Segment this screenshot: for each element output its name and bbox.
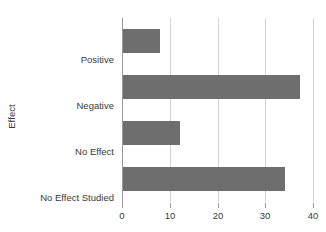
- x-tick-label: 20: [203, 210, 233, 222]
- y-tick-label: Positive: [14, 54, 114, 65]
- x-tick-0: [122, 203, 123, 208]
- bar-positive: [122, 29, 160, 53]
- bar-no-effect-studied: [122, 167, 285, 191]
- bar-negative: [122, 75, 300, 99]
- x-tick-label: 10: [155, 210, 185, 222]
- y-axis-line: [122, 18, 123, 203]
- x-tick-label: 40: [298, 210, 326, 222]
- bar-no-effect: [122, 121, 180, 145]
- y-axis-tick-labels: Positive Negative No Effect No Effect St…: [14, 18, 118, 202]
- bar-chart: Effect Positive Negative No Effect No Ef…: [0, 0, 326, 232]
- y-tick-label: No Effect: [14, 146, 114, 157]
- x-tick-20: [218, 203, 219, 208]
- gridline-40: [313, 18, 314, 202]
- x-tick-label: 30: [250, 210, 280, 222]
- y-tick-label: Negative: [14, 100, 114, 111]
- x-tick-30: [265, 203, 266, 208]
- y-tick-label: No Effect Studied: [14, 192, 114, 203]
- x-tick-label: 0: [107, 210, 137, 222]
- x-tick-10: [170, 203, 171, 208]
- x-tick-40: [313, 203, 314, 208]
- plot-area: [122, 18, 314, 202]
